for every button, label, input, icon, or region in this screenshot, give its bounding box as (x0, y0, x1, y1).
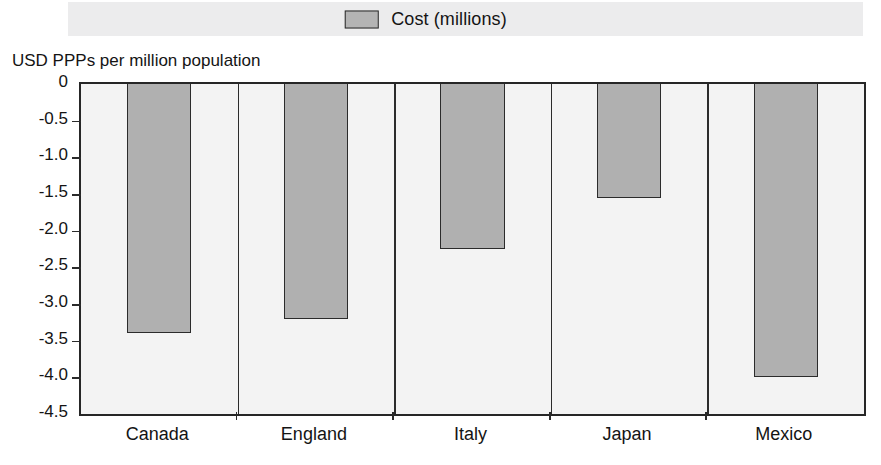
y-axis-tick-label: -4.0 (39, 365, 68, 385)
x-axis-label-italy: Italy (454, 424, 487, 445)
x-axis-label-japan: Japan (603, 424, 652, 445)
y-axis-tick-label: -1.5 (39, 182, 68, 202)
x-axis-tick (392, 412, 394, 420)
legend-entry-cost: Cost (millions) (344, 9, 507, 30)
y-axis-tick-label: 0 (59, 72, 68, 92)
bar-japan[interactable] (597, 84, 661, 198)
y-axis-tick (72, 121, 81, 123)
category-separator (707, 84, 709, 414)
y-axis-tick (72, 194, 81, 196)
y-axis-tick-label: -4.5 (39, 402, 68, 422)
y-axis-tick (72, 231, 81, 233)
y-axis-title: USD PPPs per million population (12, 51, 261, 71)
x-axis-label-mexico: Mexico (755, 424, 812, 445)
category-separator (238, 84, 240, 414)
y-axis-tick (72, 377, 81, 379)
category-separator (551, 84, 553, 414)
y-axis-tick-label: -0.5 (39, 109, 68, 129)
y-axis-tick-label: -3.5 (39, 329, 68, 349)
x-axis-labels: CanadaEnglandItalyJapanMexico (79, 424, 862, 454)
y-axis-tick-label: -2.0 (39, 219, 68, 239)
legend-swatch-cost-icon (344, 10, 378, 28)
x-axis-label-canada: Canada (126, 424, 189, 445)
bar-italy[interactable] (440, 84, 504, 249)
x-axis-tick (549, 412, 551, 420)
y-axis-tick-label: -1.0 (39, 145, 68, 165)
y-axis-tick-label: -3.0 (39, 292, 68, 312)
legend-label-cost: Cost (millions) (391, 9, 507, 30)
y-axis-tick (72, 304, 81, 306)
y-axis-tick-label: -2.5 (39, 255, 68, 275)
bar-mexico[interactable] (754, 84, 818, 377)
x-axis-tick (236, 412, 238, 420)
y-axis-tick (72, 267, 81, 269)
y-axis-tick (72, 341, 81, 343)
plot-area (79, 82, 866, 416)
plot-inner (81, 84, 864, 414)
bar-canada[interactable] (127, 84, 191, 333)
x-axis-label-england: England (281, 424, 347, 445)
y-axis-tick (72, 157, 81, 159)
bar-england[interactable] (284, 84, 348, 319)
legend-band: Cost (millions) (68, 2, 863, 36)
y-axis-labels: 0-0.5-1.0-1.5-2.0-2.5-3.0-3.5-4.0-4.5 (0, 82, 68, 412)
category-separator (394, 84, 396, 414)
x-axis-tick (705, 412, 707, 420)
